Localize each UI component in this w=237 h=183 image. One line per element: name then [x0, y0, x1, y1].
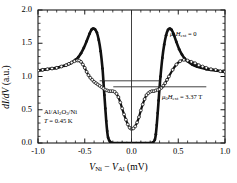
x-axis-title-unit: (mV)	[125, 162, 148, 172]
y-axis-title-d2: /d	[1, 93, 11, 100]
x-tick-label-4: 1.0	[205, 146, 237, 156]
x-axis-title-sub1: Ni	[95, 165, 102, 172]
annotation-sample-line1: Al/Al2O3/Ni	[44, 108, 77, 117]
annotation-field-value: = 3.37 T	[178, 93, 202, 100]
x-axis-title: VNi − VAl (mV)	[0, 162, 237, 172]
y-axis-title-wrapper: dI/dV (a.u.)	[0, 44, 13, 134]
y-tick-label-4: 2.0	[2, 4, 32, 14]
x-tick-label-2: 0.0	[112, 146, 152, 156]
x-axis-title-sub2: Al	[118, 165, 125, 172]
annotation-zero-field-value: = 0	[186, 30, 196, 37]
x-tick-label-1: -0.5	[65, 146, 105, 156]
x-tick-label-0: -1.0	[18, 146, 58, 156]
figure-container: dI/dV (a.u.) VNi − VAl (mV) 0.0 0.5 1.0 …	[0, 0, 237, 183]
y-tick-label-1: 0.5	[2, 104, 32, 114]
annotation-field: μ0Hext = 3.37 T	[162, 93, 202, 102]
annotation-zero-field: μ0Hext = 0	[170, 30, 197, 39]
y-axis-title: dI/dV (a.u.)	[1, 42, 11, 132]
annotation-sample: Al/Al2O3/Ni T = 0.45 K	[44, 108, 77, 126]
y-tick-label-3: 1.5	[2, 37, 32, 47]
annotation-sample-line2: T = 0.45 K	[44, 117, 77, 126]
annotation-sample-al: Al/Al	[44, 108, 59, 115]
y-tick-label-2: 1.0	[2, 71, 32, 81]
x-tick-label-3: 0.5	[158, 146, 198, 156]
annotation-sample-ni: /Ni	[69, 108, 77, 115]
annotation-temperature-value: = 0.45 K	[48, 117, 73, 124]
y-axis-title-V: V	[1, 88, 11, 94]
x-axis-title-minus: −	[102, 162, 112, 172]
